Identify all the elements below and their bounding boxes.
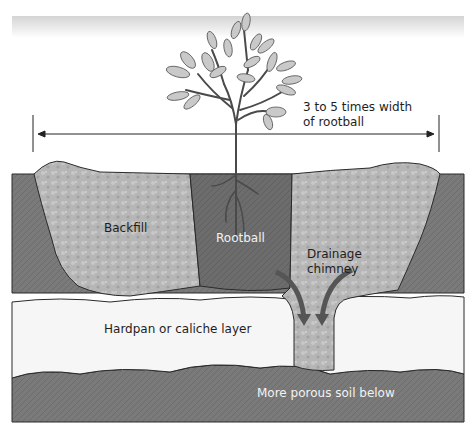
rootball-label: Rootball [216,231,265,246]
backfill-label: Backfill [104,221,147,236]
width-note: 3 to 5 times width of rootball [303,100,412,130]
diagram-canvas [0,0,476,434]
porous-soil-label: More porous soil below [257,386,395,401]
drainage-chimney-label: Drainage chimney [307,247,362,277]
hardpan-label: Hardpan or caliche layer [104,322,251,337]
planting-diagram: 3 to 5 times width of rootball Backfill … [0,0,476,434]
